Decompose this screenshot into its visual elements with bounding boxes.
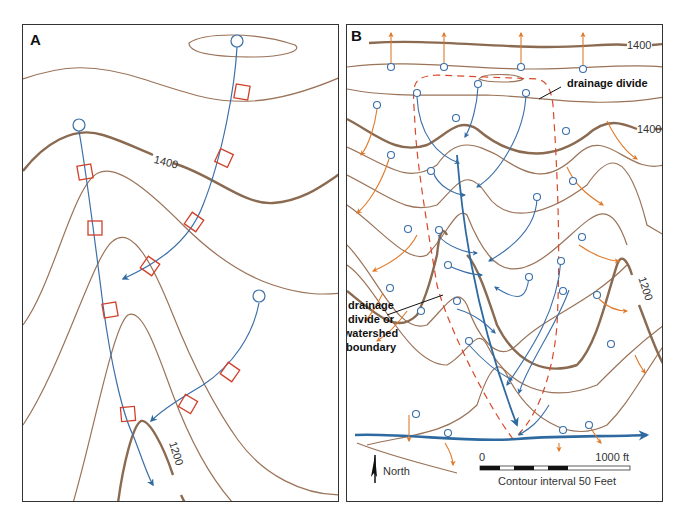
contour-label-1400-top: 1400 (627, 39, 651, 51)
svg-text:drainage: drainage (348, 299, 394, 311)
main-stream (355, 435, 647, 440)
panel-b-label: B (351, 27, 362, 44)
tributaries (417, 87, 569, 435)
contour-lines (23, 35, 339, 502)
contour-interval-caption: Contour interval 50 Feet (498, 475, 616, 487)
panel-b: 1400 1400 1200 (346, 24, 663, 502)
streams (79, 47, 259, 485)
scale-end: 1000 ft (595, 451, 629, 463)
panel-a-map: 1400 1200 (23, 25, 339, 502)
scale-bar (480, 466, 630, 470)
panel-b-map: 1400 1400 1200 (347, 25, 663, 502)
contour-label-1200: 1200 (636, 275, 655, 302)
svg-text:boundary: boundary (347, 341, 397, 353)
north-label: North (383, 465, 410, 477)
watershed-boundary-label: drainage divide or watershed boundary (347, 299, 398, 353)
outflow-sources (374, 64, 615, 437)
north-arrow-icon (371, 455, 377, 483)
contour-label-1400-mid: 1400 (637, 123, 661, 135)
scale-start: 0 (479, 451, 485, 463)
drainage-divide-label: drainage divide (567, 77, 648, 89)
svg-text:watershed: watershed (347, 327, 398, 339)
contour-label-1400: 1400 (153, 153, 180, 171)
panel-a: A 1400 1200 (22, 24, 339, 502)
svg-text:divide or: divide or (348, 313, 395, 325)
index-contours (347, 42, 663, 369)
